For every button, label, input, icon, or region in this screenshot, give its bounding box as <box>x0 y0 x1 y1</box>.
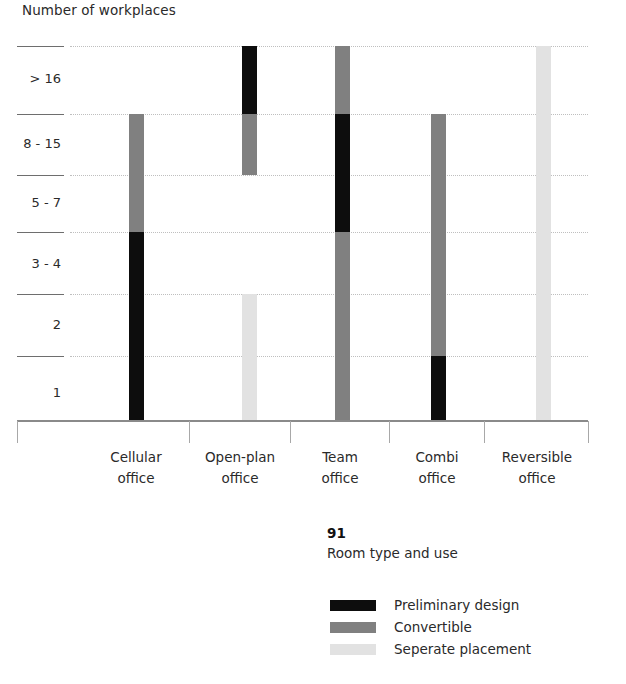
x-axis-tick <box>484 421 485 443</box>
legend-item-preliminary-design: Preliminary design <box>330 594 531 616</box>
legend-item-convertible: Convertible <box>330 616 531 638</box>
x-axis-category-line-1: Cellular <box>86 447 186 468</box>
bar-segment-cellular-convertible <box>129 114 144 232</box>
x-axis-category-line-2: office <box>86 468 186 489</box>
x-axis-baseline <box>17 420 588 422</box>
bar-segment-team-convertible-bottom <box>335 232 350 420</box>
x-axis-tick <box>189 421 190 443</box>
x-axis-category-line-1: Combi <box>390 447 484 468</box>
y-axis-label-8-15: 8 - 15 <box>9 136 61 151</box>
y-axis-label-1: 1 <box>9 385 61 400</box>
y-axis-tick <box>17 294 64 295</box>
x-axis-tick <box>588 421 589 443</box>
y-axis-label-gt16: > 16 <box>9 71 61 86</box>
x-axis-tick <box>389 421 390 443</box>
y-axis-tick <box>17 232 64 233</box>
bar-segment-team-preliminary-design <box>335 114 350 232</box>
gridline <box>70 356 588 357</box>
x-axis-category-line-1: Reversible <box>486 447 588 468</box>
y-axis-tick <box>17 46 64 47</box>
y-axis-tick <box>17 175 64 176</box>
x-axis-category-open-plan-office: Open-plan office <box>190 447 290 489</box>
x-axis-category-line-1: Team <box>293 447 387 468</box>
bar-segment-cellular-preliminary-design <box>129 232 144 420</box>
figure-caption-text: Room type and use <box>327 543 458 563</box>
y-axis-tick <box>17 356 64 357</box>
x-axis-tick <box>17 421 18 443</box>
y-axis-label-5-7: 5 - 7 <box>9 195 61 210</box>
bar-segment-reversible-seperate-placement <box>536 46 551 420</box>
gridline <box>70 46 588 47</box>
y-axis-label-2: 2 <box>9 317 61 332</box>
gridline <box>70 232 588 233</box>
y-axis-label-3-4: 3 - 4 <box>9 256 61 271</box>
x-axis-category-line-2: office <box>486 468 588 489</box>
x-axis-category-line-2: office <box>293 468 387 489</box>
gridline <box>70 114 588 115</box>
x-axis-category-cellular-office: Cellular office <box>86 447 186 489</box>
legend-label: Seperate placement <box>394 641 531 657</box>
x-axis-category-combi-office: Combi office <box>390 447 484 489</box>
gridline <box>70 175 588 176</box>
figure-number: 91 <box>327 524 458 543</box>
x-axis-tick <box>290 421 291 443</box>
x-axis-category-line-2: office <box>390 468 484 489</box>
chart-legend: Preliminary design Convertible Seperate … <box>330 594 531 660</box>
x-axis-category-line-2: office <box>190 468 290 489</box>
legend-swatch-icon <box>330 644 376 655</box>
legend-swatch-icon <box>330 600 376 611</box>
bar-segment-openplan-seperate-placement <box>242 294 257 420</box>
x-axis-category-team-office: Team office <box>293 447 387 489</box>
y-axis-tick <box>17 114 64 115</box>
bar-segment-team-convertible-top <box>335 46 350 114</box>
legend-item-seperate-placement: Seperate placement <box>330 638 531 660</box>
legend-swatch-icon <box>330 622 376 633</box>
bar-segment-combi-convertible <box>431 114 446 356</box>
legend-label: Convertible <box>394 619 472 635</box>
chart-plot-area: > 16 8 - 15 5 - 7 3 - 4 2 1 Cellular off… <box>0 0 626 684</box>
x-axis-category-reversible-office: Reversible office <box>486 447 588 489</box>
legend-label: Preliminary design <box>394 597 519 613</box>
bar-segment-openplan-convertible <box>242 114 257 175</box>
bar-segment-combi-preliminary-design <box>431 356 446 420</box>
gridline <box>70 294 588 295</box>
bar-segment-openplan-preliminary-design <box>242 46 257 114</box>
figure-caption: 91 Room type and use <box>327 524 458 563</box>
x-axis-category-line-1: Open-plan <box>190 447 290 468</box>
